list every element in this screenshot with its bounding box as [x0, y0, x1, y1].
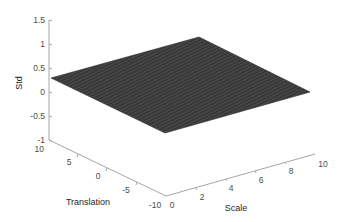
y-axis-label: Translation [66, 197, 110, 207]
x-tick-label: 4 [229, 183, 234, 193]
x-tick-label: 2 [200, 192, 205, 202]
z-tick-label: 1.5 [33, 15, 45, 25]
z-tick-label: -0.5 [30, 111, 45, 121]
y-tick-label: 10 [35, 144, 45, 154]
z-tick-label: 0 [40, 87, 45, 97]
x-axis-label: Scale [225, 203, 248, 213]
x-tick-label: 6 [259, 175, 264, 185]
y-tick-label: 5 [67, 157, 72, 167]
z-tick-label: 1 [40, 39, 45, 49]
surface-plot: 1.5 1 0.5 0 -0.5 -1 Std 10 5 0 -5 -10 Tr… [0, 0, 344, 222]
x-tick-label: 10 [318, 159, 328, 169]
x-tick-label: 8 [289, 166, 294, 176]
surface [51, 37, 310, 133]
z-axis-label: Std [14, 76, 24, 90]
z-axis: 1.5 1 0.5 0 -0.5 -1 Std [14, 15, 52, 145]
z-tick-label: 0.5 [33, 63, 45, 73]
x-axis: 0 2 4 6 8 10 Scale [166, 154, 328, 213]
y-axis: 10 5 0 -5 -10 Translation [35, 140, 166, 210]
y-tick-label: 0 [96, 171, 101, 181]
y-tick-label: -5 [122, 185, 130, 195]
y-tick-label: -10 [149, 200, 162, 210]
x-tick-label: 0 [170, 200, 175, 210]
